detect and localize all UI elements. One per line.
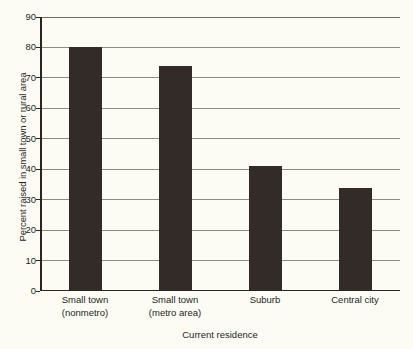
- y-tick-label: 40: [18, 164, 36, 174]
- y-tick-label: 70: [18, 73, 36, 83]
- bar: [69, 47, 102, 289]
- y-tick-label: 10: [18, 256, 36, 266]
- y-tick-label: 30: [18, 195, 36, 205]
- y-tick-label: 90: [18, 12, 36, 22]
- x-tick-label-line2: (metro area): [130, 307, 220, 320]
- x-tick-label-line1: Small town: [152, 294, 198, 305]
- bar: [159, 66, 192, 290]
- y-tick-label: 60: [18, 103, 36, 113]
- bar: [249, 166, 282, 289]
- x-tick-label: Small town(metro area): [130, 294, 220, 319]
- x-tick-label-line2: (nonmetro): [40, 307, 130, 320]
- y-axis-tick-labels: 0102030405060708090: [18, 0, 36, 349]
- gridline: [40, 17, 400, 18]
- x-tick-label-line1: Small town: [62, 294, 108, 305]
- x-axis-line: [40, 290, 400, 292]
- x-tick-label: Central city: [310, 294, 400, 307]
- x-tick-label-line1: Central city: [331, 294, 379, 305]
- x-tick-label: Small town(nonmetro): [40, 294, 130, 319]
- bar-chart-figure: Percent raised in small town or rural ar…: [0, 0, 413, 349]
- x-tick-label-line1: Suburb: [250, 294, 281, 305]
- x-axis-tick-labels: Small town(nonmetro)Small town(metro are…: [40, 294, 400, 328]
- y-tick-label: 0: [18, 286, 36, 296]
- x-axis-title: Current residence: [40, 329, 400, 341]
- plot-area: [40, 17, 400, 291]
- y-axis-line: [40, 17, 42, 291]
- y-tick-label: 80: [18, 42, 36, 52]
- bar: [339, 188, 372, 290]
- x-tick-label: Suburb: [220, 294, 310, 307]
- y-tick-label: 20: [18, 225, 36, 235]
- y-tick-label: 50: [18, 134, 36, 144]
